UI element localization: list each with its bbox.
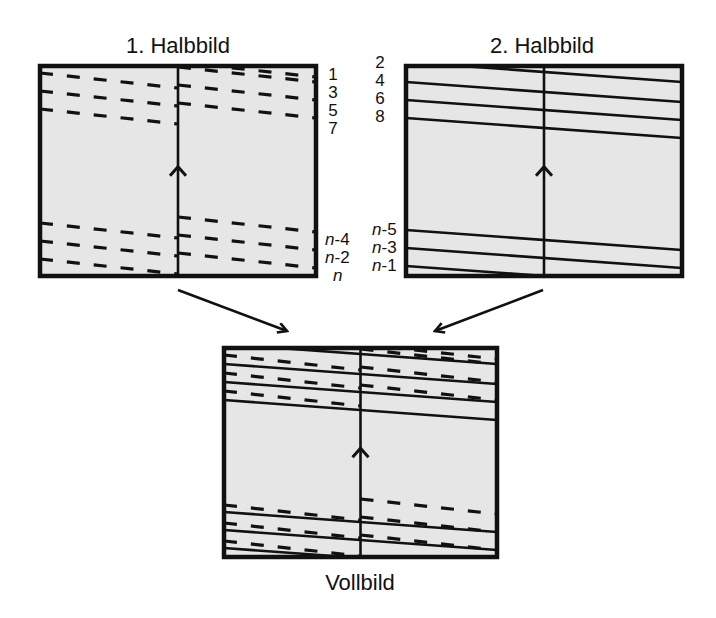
field1-title: 1. Halbbild	[126, 33, 230, 58]
interlace-diagram: 1. Halbbild 2. Halbbild Vollbild 1 3 5 7…	[0, 0, 716, 618]
arrow-field2-to-frame	[435, 290, 543, 331]
field2-label-n-1: n-1	[372, 256, 397, 275]
field1-label-n-4: n-4	[325, 230, 350, 249]
field2-line-labels: 2 4 6 8 n-5 n-3 n-1	[372, 53, 397, 275]
field2-label-n-5: n-5	[372, 220, 397, 239]
arrow-field1-to-frame	[178, 290, 287, 331]
field1-label-n-2: n-2	[325, 248, 350, 267]
field1-label-7: 7	[328, 119, 337, 138]
frame-title: Vollbild	[325, 570, 395, 595]
field1-label-n: n	[333, 266, 342, 285]
frame-panel	[224, 344, 497, 568]
field2-label-2: 2	[375, 53, 384, 72]
field1-label-3: 3	[328, 83, 337, 102]
field2-label-8: 8	[375, 107, 384, 126]
field2-panel	[406, 62, 682, 286]
field1-label-1: 1	[328, 65, 337, 84]
field1-panel	[40, 62, 316, 276]
field1-label-5: 5	[328, 101, 337, 120]
field1-line-labels: 1 3 5 7 n-4 n-2 n	[325, 65, 350, 285]
field2-label-n-3: n-3	[372, 238, 397, 257]
field2-title: 2. Halbbild	[490, 33, 594, 58]
field2-label-6: 6	[375, 89, 384, 108]
field2-label-4: 4	[375, 71, 384, 90]
